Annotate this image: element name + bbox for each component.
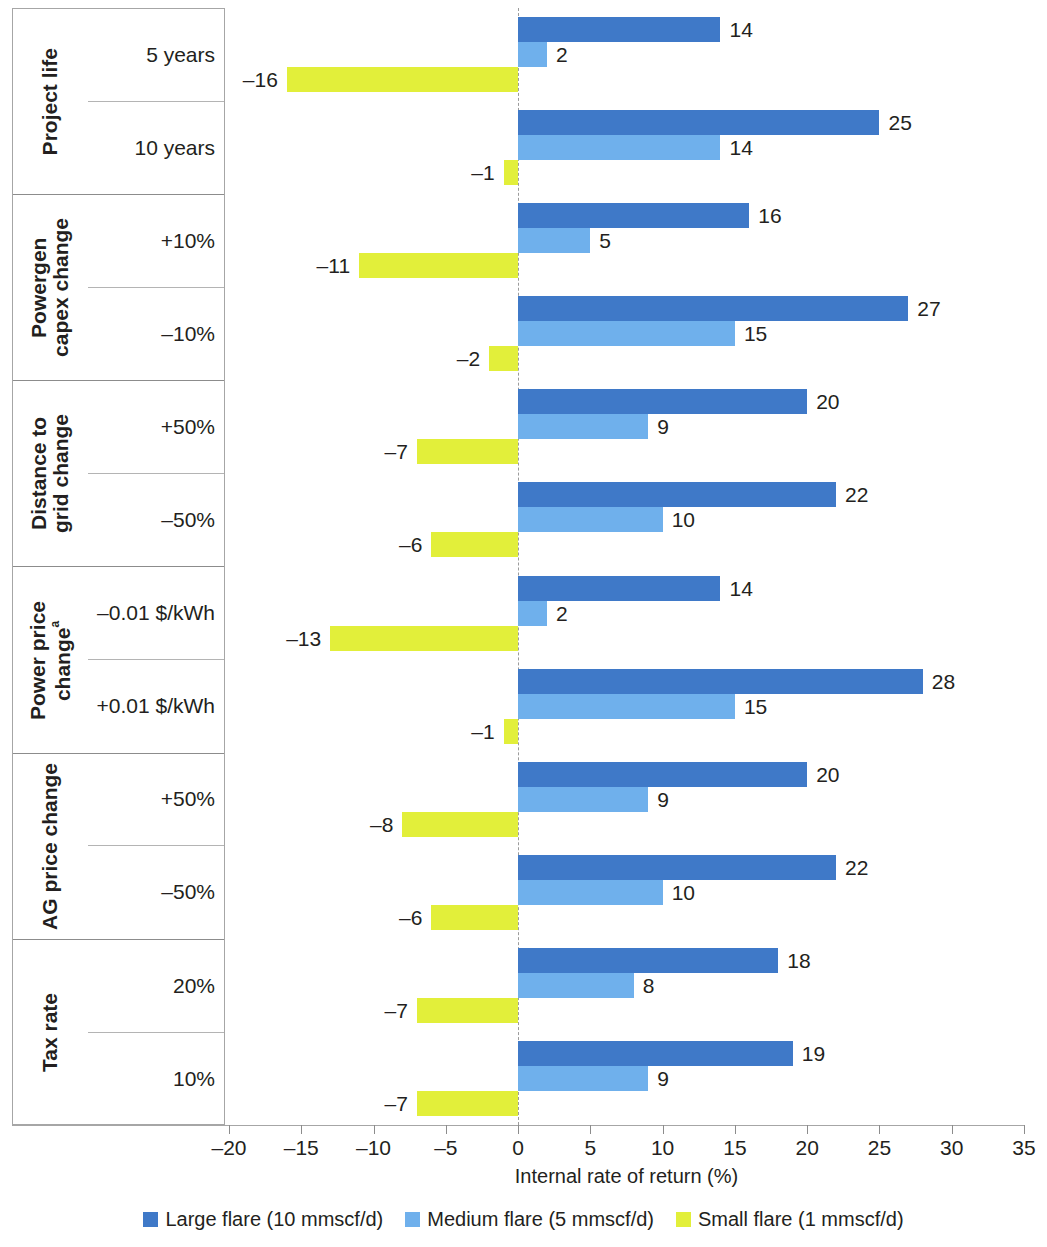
category-row-label: 5 years <box>88 9 224 102</box>
x-axis-tick-label: 0 <box>512 1136 524 1160</box>
bar-medium-flare <box>518 321 735 346</box>
bar-small-flare <box>417 998 518 1023</box>
bar-group-row: 165–11 <box>229 194 1024 287</box>
bar-large-flare <box>518 948 778 973</box>
bar-large-flare <box>518 203 749 228</box>
bar-value-label-large-flare: 27 <box>917 296 940 321</box>
x-axis-tick <box>374 1125 375 1134</box>
group-name-cell: AG price change <box>13 754 88 939</box>
legend-item: Medium flare (5 mmscf/d) <box>405 1208 654 1231</box>
group-rows: +50%–50% <box>88 754 224 939</box>
bar-value-label-medium-flare: 9 <box>657 414 669 439</box>
bar-large-flare <box>518 296 908 321</box>
bar-group-row: 142–13 <box>229 567 1024 660</box>
bar-medium-flare <box>518 507 663 532</box>
bar-value-label-small-flare: –6 <box>399 532 422 557</box>
category-row-label: –50% <box>88 474 224 567</box>
bar-value-label-small-flare: –8 <box>370 812 393 837</box>
group-block: Project life5 years10 years <box>13 9 224 195</box>
bar-value-label-large-flare: 22 <box>845 855 868 880</box>
legend-label: Medium flare (5 mmscf/d) <box>427 1208 654 1231</box>
category-row-label: +50% <box>88 381 224 474</box>
x-axis: –20–15–10–505101520253035 <box>229 1125 1024 1126</box>
bar-value-label-small-flare: –11 <box>317 253 350 278</box>
bar-small-flare <box>489 346 518 371</box>
bar-medium-flare <box>518 228 590 253</box>
bar-value-label-large-flare: 20 <box>816 762 839 787</box>
bar-small-flare <box>431 532 518 557</box>
bar-small-flare <box>504 160 518 185</box>
bar-medium-flare <box>518 414 648 439</box>
bar-value-label-small-flare: –1 <box>471 719 494 744</box>
x-axis-tick <box>446 1125 447 1134</box>
bar-group-row: 2815–1 <box>229 660 1024 753</box>
legend-item: Large flare (10 mmscf/d) <box>143 1208 383 1231</box>
bar-small-flare <box>330 626 518 651</box>
bar-value-label-medium-flare: 2 <box>556 42 568 67</box>
bar-value-label-large-flare: 19 <box>802 1041 825 1066</box>
bar-value-label-small-flare: –7 <box>385 998 408 1023</box>
bar-medium-flare <box>518 787 648 812</box>
legend-label: Small flare (1 mmscf/d) <box>698 1208 904 1231</box>
category-row-label: +0.01 $/kWh <box>88 660 224 753</box>
bar-small-flare <box>504 719 518 744</box>
group-name-cell: Project life <box>13 9 88 194</box>
bar-medium-flare <box>518 135 720 160</box>
bar-large-flare <box>518 110 879 135</box>
group-rows: 20%10% <box>88 940 224 1126</box>
bar-small-flare <box>402 812 518 837</box>
bar-value-label-large-flare: 22 <box>845 482 868 507</box>
x-axis-tick-label: 5 <box>585 1136 597 1160</box>
category-row-label: 20% <box>88 940 224 1033</box>
x-axis-tick-label: –10 <box>356 1136 391 1160</box>
bar-value-label-small-flare: –6 <box>399 905 422 930</box>
x-axis-tick-label: –5 <box>434 1136 457 1160</box>
legend-swatch-icon <box>676 1212 691 1227</box>
bar-value-label-medium-flare: 10 <box>672 880 695 905</box>
bar-group-row: 209–8 <box>229 753 1024 846</box>
x-axis-tick-label: 25 <box>868 1136 891 1160</box>
legend-label: Large flare (10 mmscf/d) <box>165 1208 383 1231</box>
tornado-sensitivity-chart: Project life5 years10 yearsPowergen cape… <box>0 0 1047 1247</box>
x-axis-tick-label: 15 <box>723 1136 746 1160</box>
group-block: Powergen capex change+10%–10% <box>13 195 224 381</box>
group-name-label: Power price changea <box>27 601 75 720</box>
category-row-label: –50% <box>88 846 224 939</box>
group-block: AG price change+50%–50% <box>13 754 224 940</box>
x-axis-tick <box>229 1125 230 1134</box>
category-row-label: 10 years <box>88 102 224 195</box>
x-axis-tick-label: 20 <box>795 1136 818 1160</box>
bar-small-flare <box>287 67 518 92</box>
group-name-superscript: a <box>48 620 62 627</box>
bar-value-label-medium-flare: 15 <box>744 694 767 719</box>
bar-large-flare <box>518 389 807 414</box>
bar-value-label-large-flare: 14 <box>729 576 752 601</box>
x-axis-tick-label: –20 <box>211 1136 246 1160</box>
bar-large-flare <box>518 576 720 601</box>
bar-large-flare <box>518 855 836 880</box>
bar-value-label-medium-flare: 14 <box>729 135 752 160</box>
bar-value-label-medium-flare: 5 <box>599 228 611 253</box>
bar-value-label-medium-flare: 15 <box>744 321 767 346</box>
x-axis-tick <box>518 1125 519 1134</box>
legend-swatch-icon <box>405 1212 420 1227</box>
x-axis-tick <box>952 1125 953 1134</box>
bar-value-label-medium-flare: 9 <box>657 787 669 812</box>
group-name-cell: Distance to grid change <box>13 381 88 566</box>
bar-value-label-small-flare: –16 <box>243 67 278 92</box>
group-name-label: Tax rate <box>39 993 61 1072</box>
x-axis-tick <box>735 1125 736 1134</box>
bar-small-flare <box>359 253 518 278</box>
bar-group-row: 188–7 <box>229 939 1024 1032</box>
bar-medium-flare <box>518 880 663 905</box>
bar-large-flare <box>518 669 923 694</box>
group-name-cell: Power price changea <box>13 567 88 752</box>
bar-group-row: 2210–6 <box>229 846 1024 939</box>
group-name-label: Distance to grid change <box>28 414 73 533</box>
x-axis-tick-label: –15 <box>284 1136 319 1160</box>
bar-value-label-medium-flare: 2 <box>556 601 568 626</box>
bar-value-label-small-flare: –13 <box>286 626 321 651</box>
bar-medium-flare <box>518 42 547 67</box>
group-name-cell: Powergen capex change <box>13 195 88 380</box>
category-row-label: +50% <box>88 754 224 847</box>
